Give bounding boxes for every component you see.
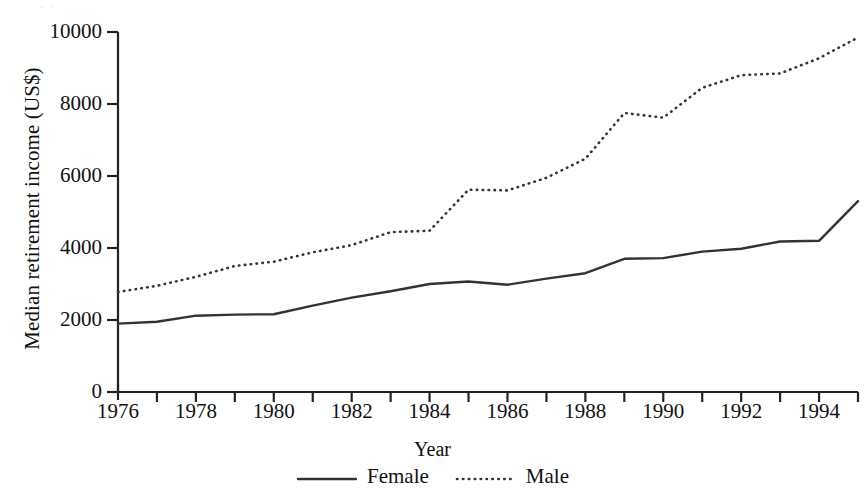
legend-entry-female: Female xyxy=(296,466,429,489)
x-axis-tick-label: 1976 xyxy=(73,401,163,422)
x-axis-tick-label: 1994 xyxy=(774,401,864,422)
y-axis-tick-label: 4000 xyxy=(10,237,102,258)
x-axis-tick-label: 1982 xyxy=(307,401,397,422)
data-series-layer xyxy=(118,37,858,323)
x-axis-title: Year xyxy=(0,438,865,461)
x-axis-tick-label: 1978 xyxy=(151,401,241,422)
y-axis-tick-label: 8000 xyxy=(10,93,102,114)
series-line-female xyxy=(118,201,858,323)
legend-label: Male xyxy=(526,466,569,489)
solid-line-swatch xyxy=(296,471,358,485)
y-axis-tick-label: 6000 xyxy=(10,165,102,186)
legend-entry-male: Male xyxy=(455,466,569,489)
x-axis-tick-label: 1988 xyxy=(540,401,630,422)
y-axis-tick-label: 0 xyxy=(10,381,102,402)
chart-figure: · · · Median retirement income (US$) 020… xyxy=(0,0,865,498)
x-axis-tick-label: 1992 xyxy=(696,401,786,422)
y-axis-tick-label: 10000 xyxy=(10,21,102,42)
plot-area xyxy=(0,0,865,498)
x-axis-tick-label: 1986 xyxy=(462,401,552,422)
series-line-male xyxy=(118,37,858,292)
axis-lines xyxy=(118,32,858,392)
x-axis-tick-label: 1990 xyxy=(618,401,708,422)
legend-label: Female xyxy=(367,466,429,489)
x-axis-tick-label: 1984 xyxy=(385,401,475,422)
chart-legend: FemaleMale xyxy=(0,466,865,489)
y-axis-tick-label: 2000 xyxy=(10,309,102,330)
x-axis-tick-label: 1980 xyxy=(229,401,319,422)
dotted-line-swatch xyxy=(455,471,517,485)
y-axis-ticks xyxy=(107,32,118,392)
